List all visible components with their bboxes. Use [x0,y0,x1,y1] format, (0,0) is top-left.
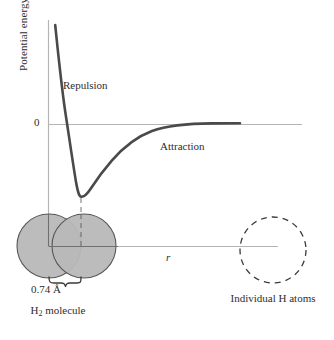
repulsion-annotation: Repulsion [63,80,108,91]
x-axis-label: r [166,252,170,263]
potential-energy-diagram: Potential energy 0 Repulsion Attraction … [0,0,334,340]
h2-molecule-label-suffix: molecule [42,304,85,316]
y-axis-zero-tick-label: 0 [34,117,40,128]
attraction-annotation: Attraction [160,141,205,152]
h2-molecule-label-prefix: H [30,304,38,316]
individual-h-atoms-label: Individual H atoms [231,293,316,304]
free-h-atom-dashed-circle [240,217,306,283]
y-axis-label: Potential energy [18,0,29,71]
potential-energy-curve [55,25,240,197]
h2-molecule-label: H2 molecule [30,305,85,318]
bond-length-label: 0.74 Å [31,284,61,295]
